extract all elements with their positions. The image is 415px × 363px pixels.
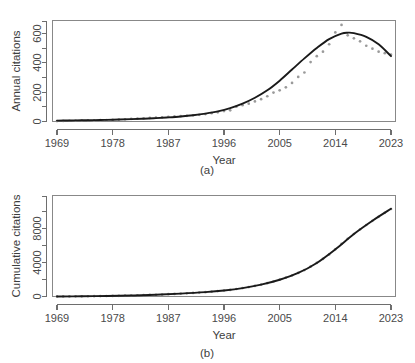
chart-b-svg: 0 4000 8000 Cumulative citations 1969 19… xyxy=(0,181,415,363)
data-point xyxy=(303,71,306,74)
data-point xyxy=(272,91,275,94)
data-point xyxy=(278,89,281,92)
chart-panel-b: 0 4000 8000 Cumulative citations 1969 19… xyxy=(0,181,415,363)
y-tick-label-a-200: 200 xyxy=(31,83,43,101)
data-point xyxy=(309,61,312,64)
data-point xyxy=(383,52,386,55)
data-point xyxy=(315,55,318,58)
x-axis-title-b: Year xyxy=(212,329,235,341)
data-point xyxy=(322,50,325,53)
data-point xyxy=(340,24,343,27)
chart-a-svg: 0 200 400 600 Annual citations 1969 1978… xyxy=(0,0,415,181)
plot-area-a xyxy=(53,21,396,122)
fit-curve-a xyxy=(57,33,391,121)
y-ticks-b xyxy=(42,197,47,297)
x-tick-label-b-1978: 1978 xyxy=(100,312,124,324)
y-tick-label-b-0: 0 xyxy=(31,293,43,299)
data-point xyxy=(285,86,288,89)
data-point xyxy=(254,100,257,103)
data-points-a xyxy=(56,24,393,123)
data-point xyxy=(365,44,368,47)
x-tick-label-a-1978: 1978 xyxy=(100,137,124,149)
data-point xyxy=(291,82,294,85)
x-ticks-a xyxy=(57,130,391,135)
y-axis-title-b: Cumulative citations xyxy=(10,194,22,297)
x-tick-label-b-2005: 2005 xyxy=(267,312,291,324)
y-tick-label-a-600: 600 xyxy=(31,24,43,42)
chart-panel-a: 0 200 400 600 Annual citations 1969 1978… xyxy=(0,0,415,181)
y-axis-title-a: Annual citations xyxy=(10,30,22,111)
x-tick-label-a-2005: 2005 xyxy=(267,137,291,149)
data-point xyxy=(377,50,380,53)
y-tick-label-b-8000: 8000 xyxy=(31,216,43,240)
x-tick-label-a-1996: 1996 xyxy=(212,137,236,149)
caption-a-svg: (a) xyxy=(0,160,415,180)
data-point xyxy=(297,76,300,79)
data-point xyxy=(229,109,232,112)
data-point xyxy=(334,31,337,34)
fit-curve-b xyxy=(57,209,391,297)
y-tick-label-a-0: 0 xyxy=(31,118,43,124)
plot-area-b xyxy=(53,196,396,297)
data-point xyxy=(371,47,374,50)
citations-figure: 0 200 400 600 Annual citations 1969 1978… xyxy=(0,0,415,363)
y-tick-label-a-400: 400 xyxy=(31,53,43,71)
data-point xyxy=(328,43,331,46)
x-ticks-b xyxy=(57,305,391,310)
data-point xyxy=(266,95,269,98)
x-tick-label-b-2014: 2014 xyxy=(323,312,347,324)
x-tick-label-b-1996: 1996 xyxy=(212,312,236,324)
x-tick-label-a-1987: 1987 xyxy=(156,137,180,149)
data-point xyxy=(359,40,362,43)
x-tick-label-a-1969: 1969 xyxy=(45,137,69,149)
x-tick-label-a-2014: 2014 xyxy=(323,137,347,149)
x-tick-label-b-1987: 1987 xyxy=(156,312,180,324)
x-tick-label-a-2023: 2023 xyxy=(379,137,403,149)
x-tick-label-b-1969: 1969 xyxy=(45,312,69,324)
panel-caption-b: (b) xyxy=(200,347,214,359)
x-tick-label-b-2023: 2023 xyxy=(379,312,403,324)
y-tick-label-b-4000: 4000 xyxy=(31,250,43,274)
data-point xyxy=(247,102,250,105)
data-points-b xyxy=(56,208,393,298)
data-point xyxy=(260,98,263,101)
panel-caption-a: (a) xyxy=(200,164,214,176)
data-point xyxy=(353,37,356,40)
data-point xyxy=(346,34,349,37)
